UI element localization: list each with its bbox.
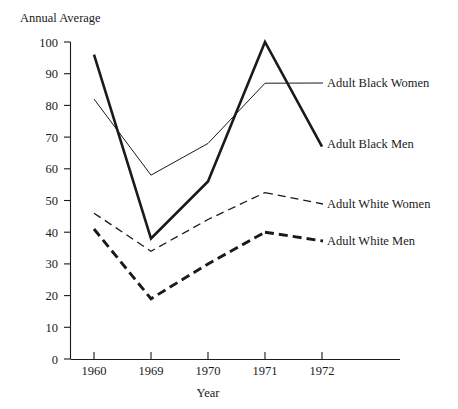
y-tick-label: 60 bbox=[46, 162, 59, 176]
series-label-black-women: Adult Black Women bbox=[327, 76, 430, 90]
y-tick-label: 70 bbox=[46, 131, 59, 145]
line-chart: Annual Average 0102030405060708090100 19… bbox=[0, 0, 458, 409]
series-labels: Adult Black WomenAdult Black MenAdult Wh… bbox=[327, 76, 431, 248]
series-line-adult-white-men bbox=[94, 229, 265, 299]
y-tick-label: 0 bbox=[52, 353, 58, 367]
y-axis-title: Annual Average bbox=[20, 11, 101, 25]
label-leader-lines bbox=[265, 83, 323, 241]
series-label-white-men: Adult White Men bbox=[327, 234, 416, 248]
y-tick-label: 30 bbox=[46, 257, 59, 271]
x-tick-label: 1971 bbox=[253, 364, 278, 378]
y-tick-label: 90 bbox=[46, 67, 59, 81]
x-tick-label: 1969 bbox=[139, 364, 164, 378]
leader-line bbox=[265, 232, 323, 241]
series-label-white-women: Adult White Women bbox=[327, 197, 431, 211]
x-axis-ticks bbox=[94, 352, 322, 360]
y-tick-label: 40 bbox=[46, 226, 59, 240]
x-tick-label: 1972 bbox=[310, 364, 335, 378]
series-line-adult-black-women bbox=[94, 83, 265, 175]
x-axis-title: Year bbox=[196, 386, 220, 400]
x-axis-tick-labels: 19601969197019711972 bbox=[82, 364, 335, 378]
series-label-black-men: Adult Black Men bbox=[327, 137, 415, 151]
y-tick-label: 10 bbox=[46, 321, 59, 335]
y-tick-label: 100 bbox=[39, 36, 58, 50]
x-tick-label: 1960 bbox=[82, 364, 107, 378]
y-axis-tick-labels: 0102030405060708090100 bbox=[39, 36, 58, 367]
y-tick-label: 20 bbox=[46, 289, 59, 303]
y-tick-label: 50 bbox=[46, 194, 59, 208]
chart-container: Annual Average 0102030405060708090100 19… bbox=[0, 0, 458, 409]
series-lines bbox=[94, 42, 322, 299]
leader-line bbox=[265, 193, 323, 204]
x-tick-label: 1970 bbox=[196, 364, 221, 378]
y-axis-ticks bbox=[64, 42, 71, 359]
series-line-adult-black-men bbox=[94, 42, 322, 239]
series-line-adult-white-women bbox=[94, 193, 265, 252]
y-tick-label: 80 bbox=[46, 99, 59, 113]
